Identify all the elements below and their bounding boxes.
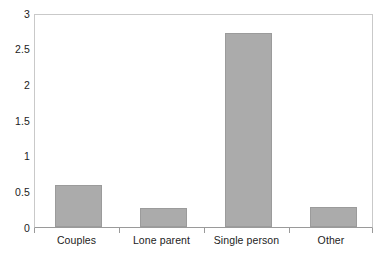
bar-lone-parent [140,208,187,227]
bar-slot-lone-parent [140,13,187,227]
x-axis-tick-4 [372,228,373,233]
y-tick-label-2: 2 [0,80,30,90]
bar-single-person [225,33,272,227]
bar-chart: 3 2.5 2 1.5 1 0.5 0 Couples Lone parent … [0,0,389,263]
bar-slot-couples [55,13,102,227]
y-tick-label-2.5: 2.5 [0,44,30,54]
y-tick-label-1.5: 1.5 [0,116,30,126]
x-tick-label-couples: Couples [34,234,119,246]
bar-other [310,207,357,227]
bar-slot-other [310,13,357,227]
x-tick-label-other: Other [289,234,373,246]
y-axis: 3 2.5 2 1.5 1 0.5 0 [0,0,30,263]
x-axis-tick-0 [34,228,35,233]
y-tick-label-0.5: 0.5 [0,187,30,197]
y-tick-label-1: 1 [0,151,30,161]
bar-couples [55,185,102,227]
x-tick-label-single-person: Single person [204,234,289,246]
plot-area [34,14,373,228]
y-tick-label-0: 0 [0,223,30,233]
x-axis-tick-2 [204,228,205,233]
bar-slot-single-person [225,13,272,227]
x-tick-label-lone-parent: Lone parent [119,234,204,246]
x-axis-tick-1 [119,228,120,233]
x-axis-tick-3 [289,228,290,233]
y-tick-label-3: 3 [0,9,30,19]
